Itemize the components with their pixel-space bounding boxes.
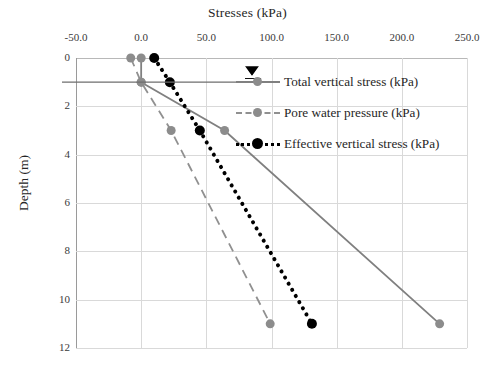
x-tick-label: 250.0 xyxy=(437,31,495,43)
y-tick-label: 8 xyxy=(44,244,70,256)
legend-key-pore-icon xyxy=(236,106,280,120)
gridline xyxy=(76,348,467,349)
data-point-marker xyxy=(137,54,146,63)
data-point-marker xyxy=(195,126,205,136)
data-point-marker xyxy=(126,54,135,63)
y-tick-label: 4 xyxy=(44,148,70,160)
legend-key-total-icon xyxy=(236,75,280,89)
y-tick-label: 12 xyxy=(44,341,70,353)
x-axis-title: Stresses (kPa) xyxy=(0,5,495,21)
chart-canvas: Stresses (kPa) Depth (m) -50.00.050.0100… xyxy=(0,0,495,372)
x-tick-label: 0.0 xyxy=(111,31,171,43)
legend-label-total: Total vertical stress (kPa) xyxy=(280,74,418,90)
x-tick-label: 100.0 xyxy=(242,31,302,43)
y-tick-label: 2 xyxy=(44,99,70,111)
data-point-marker xyxy=(167,126,176,135)
x-tick-label: 150.0 xyxy=(307,31,367,43)
data-point-marker xyxy=(220,126,229,135)
data-point-marker xyxy=(149,53,159,63)
legend-label-effective: Effective vertical stress (kPa) xyxy=(280,136,439,152)
y-axis-title: Depth (m) xyxy=(16,118,32,248)
legend-label-pore: Pore water pressure (kPa) xyxy=(280,105,420,121)
x-tick-label: 50.0 xyxy=(176,31,236,43)
y-tick-label: 6 xyxy=(44,196,70,208)
legend-item-total: Total vertical stress (kPa) xyxy=(236,66,482,97)
legend: Total vertical stress (kPa) Pore water p… xyxy=(236,66,482,159)
y-tick-label: 0 xyxy=(44,51,70,63)
legend-item-pore: Pore water pressure (kPa) xyxy=(236,97,482,128)
data-point-marker xyxy=(307,319,317,329)
x-tick-label: -50.0 xyxy=(46,31,106,43)
x-tick-label: 200.0 xyxy=(372,31,432,43)
data-point-marker xyxy=(435,319,444,328)
legend-key-effective-icon xyxy=(236,137,280,151)
data-point-marker xyxy=(266,319,275,328)
legend-item-effective: Effective vertical stress (kPa) xyxy=(236,128,482,159)
y-tick-label: 10 xyxy=(44,293,70,305)
